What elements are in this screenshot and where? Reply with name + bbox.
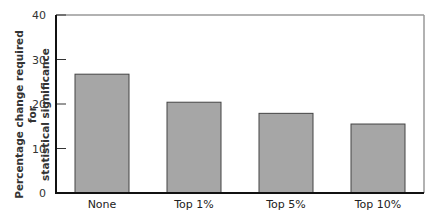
y-tick-label: 0 <box>39 187 46 200</box>
x-tick-label: Top 10% <box>354 198 402 211</box>
bar <box>351 124 405 193</box>
x-tick-label: Top 5% <box>265 198 306 211</box>
bar <box>259 113 313 193</box>
bar <box>167 102 221 193</box>
x-tick-label: None <box>88 198 117 211</box>
y-tick-label: 30 <box>32 54 46 67</box>
bar-chart: NoneTop 1%Top 5%Top 10%010203040 <box>0 0 436 216</box>
x-tick-label: Top 1% <box>173 198 214 211</box>
bar <box>75 74 129 193</box>
y-tick-label: 10 <box>32 143 46 156</box>
y-tick-label: 40 <box>32 9 46 22</box>
y-tick-label: 20 <box>32 98 46 111</box>
